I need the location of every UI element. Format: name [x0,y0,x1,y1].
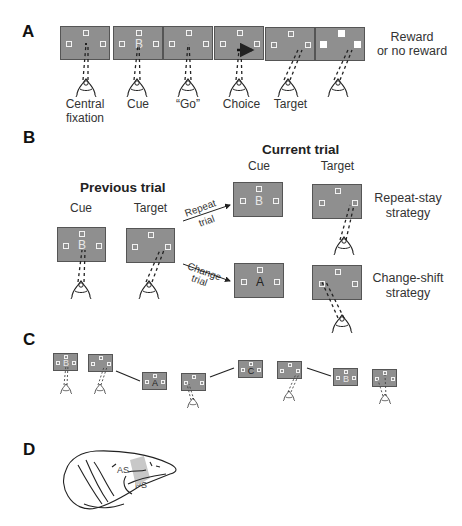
stimulus-square-top [99,356,103,360]
current-trial-title: Current trial [262,142,339,157]
sulcus-label-ps: PS [135,480,147,490]
stimulus-square-right [391,377,395,381]
stimulus-square-left [91,362,95,366]
cue-letter: B [135,37,143,51]
cue-letter: B [255,194,263,208]
seq-screen-1: B [53,353,78,371]
seq-letter: A [152,378,158,388]
repeat-cue-screen: B [233,182,283,217]
stimulus-square-top [79,231,85,237]
stimulus-square-right [203,41,209,47]
repeat-strategy-line2: strategy [368,206,448,220]
screen-go [163,26,213,60]
stimulus-square-right-filled [354,41,361,48]
diagram-overlay [0,0,462,526]
stimulus-square-left [132,244,138,250]
stimulus-square-right [273,198,279,204]
screen-target [265,27,315,61]
seq-screen-3: A [142,372,167,390]
stimulus-square-left [241,368,245,372]
stimulus-square-left-filled [320,41,327,48]
change-cue-screen: A [234,263,284,298]
stimulus-square-top-filled [338,30,345,37]
repeat-arrow-label-2: trial [197,213,216,229]
stimulus-square-top [237,30,243,36]
stimulus-square-right [352,281,358,287]
screen-choice [214,26,264,60]
prev-cue-screen: B [57,227,106,262]
stimulus-square-left [241,279,247,285]
stimulus-square-left [169,41,175,47]
panel-d-label: D [23,440,35,460]
stimulus-square-right [107,362,111,366]
stimulus-square-right [296,369,300,373]
seq-letter: C [248,366,255,376]
change-strategy-line2: strategy [368,286,448,300]
caption-choice: Choice [219,97,264,111]
stimulus-square-left [66,41,72,47]
sulcus-label-as: AS [117,465,129,475]
seq-letter: B [343,374,349,384]
stimulus-square-right [257,368,261,372]
stimulus-square-right [161,380,165,384]
stimulus-square-top [136,30,142,36]
panel-a-label: A [22,22,34,42]
cue-letter: B [78,238,86,252]
seq-screen-8 [372,369,397,387]
stimulus-square-right [352,200,358,206]
curr-target-label: Target [315,159,360,173]
stimulus-square-right [165,244,171,250]
fixation-point [85,43,87,45]
stimulus-square-left [220,41,226,47]
caption-target: Target [268,97,313,111]
stimulus-square-left [319,281,325,287]
stimulus-square-right [96,243,102,249]
stimulus-square-top [335,188,341,194]
stimulus-square-left [184,381,188,385]
stimulus-square-top [335,269,341,275]
stimulus-square-left [319,200,325,206]
prev-target-screen [126,228,175,263]
repeat-strategy-line1: Repeat-stay [368,191,448,205]
stimulus-square-top [186,30,192,36]
stimulus-square-left [336,376,340,380]
stimulus-square-left [271,42,277,48]
stimulus-square-right [153,41,159,47]
stimulus-square-left [375,377,379,381]
stimulus-square-right [305,42,311,48]
stimulus-square-top [192,375,196,379]
stimulus-square-left [240,198,246,204]
seq-screen-7: B [333,368,358,386]
stimulus-square-top [383,371,387,375]
change-target-screen [312,265,362,300]
stimulus-square-top [83,30,89,36]
prev-target-label: Target [128,201,173,215]
previous-trial-title: Previous trial [80,180,166,195]
stimulus-square-top [148,232,154,238]
screen-reward [315,27,365,61]
brain-outline-icon [64,451,176,509]
panel-c-label: C [23,330,35,350]
stimulus-square-left [280,369,284,373]
caption-go: “Go” [168,97,208,111]
stimulus-square-left [63,243,69,249]
stimulus-square-right [254,41,260,47]
stimulus-square-right [100,41,106,47]
seq-screen-5: C [238,360,263,378]
curr-cue-label: Cue [244,159,274,173]
stimulus-square-right [72,361,76,365]
stimulus-square-left [145,380,149,384]
caption-fixation: fixation [60,111,110,125]
stimulus-square-right [352,376,356,380]
seq-screen-6 [277,361,302,379]
screen-cue: B [113,26,163,60]
panel-b-label: B [23,128,35,148]
gaze-lines-b [78,205,354,318]
stimulus-square-right [200,381,204,385]
reward-label-line2: or no reward [372,44,452,58]
seq-screen-2 [88,354,113,372]
seq-screen-4 [181,373,206,391]
screen-central-fixation [60,26,110,60]
reward-label-line1: Reward [372,30,452,44]
cue-letter: A [256,275,264,289]
